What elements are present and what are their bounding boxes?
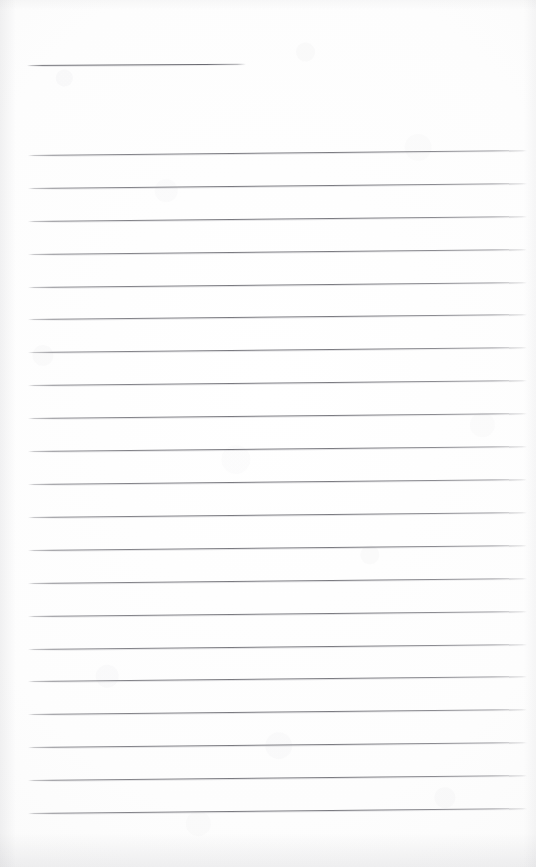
ruled-lines-layer	[0, 0, 536, 867]
ruled-line	[28, 808, 527, 814]
ruled-line	[28, 380, 527, 386]
ruled-line	[28, 709, 527, 715]
ruled-line	[28, 150, 527, 156]
ruled-line	[28, 446, 527, 452]
scanned-page	[0, 0, 536, 867]
ruled-line	[28, 282, 527, 288]
header-rule	[27, 64, 246, 66]
ruled-line	[28, 314, 527, 320]
ruled-line	[28, 479, 527, 485]
ruled-line	[28, 545, 527, 551]
ruled-line	[28, 249, 527, 255]
ruled-line	[28, 742, 527, 748]
ruled-line	[28, 183, 527, 189]
ruled-line	[28, 512, 527, 518]
ruled-line	[28, 775, 527, 781]
ruled-line	[28, 578, 527, 584]
ruled-line	[28, 676, 527, 682]
ruled-line	[28, 216, 527, 222]
ruled-line	[28, 611, 527, 617]
ruled-line	[28, 413, 527, 419]
ruled-line	[28, 644, 527, 650]
ruled-line	[28, 347, 527, 353]
